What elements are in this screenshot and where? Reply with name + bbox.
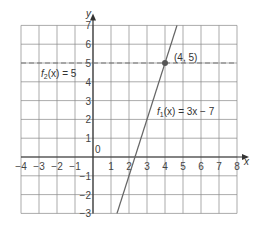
axes [21, 13, 249, 213]
x-tick-label: 6 [198, 161, 204, 172]
y-tick-label: −3 [80, 208, 92, 219]
f1-label: f1(x) = 3x − 7 [157, 106, 215, 118]
tick-labels: −4−3−2−1012345678−3−2−11234567 [15, 20, 240, 219]
y-tick-label: 4 [85, 77, 91, 88]
x-tick-label: −2 [51, 161, 63, 172]
y-tick-label: −1 [80, 171, 92, 182]
y-axis-label: y [85, 8, 92, 19]
y-tick-label: 1 [85, 133, 91, 144]
function-graph: −4−3−2−1012345678−3−2−11234567 x y (4, 5… [0, 0, 261, 231]
x-tick-label: 3 [144, 161, 150, 172]
point-label: (4, 5) [174, 52, 197, 63]
x-tick-label: 4 [162, 161, 168, 172]
x-tick-label: 5 [180, 161, 186, 172]
x-tick-label: 0 [95, 144, 101, 155]
y-tick-label: −2 [80, 190, 92, 201]
y-tick-label: 6 [85, 39, 91, 50]
x-axis-label: x [243, 156, 250, 167]
x-tick-label: 8 [234, 161, 240, 172]
y-tick-label: 3 [85, 96, 91, 107]
x-tick-label: −3 [33, 161, 45, 172]
y-tick-label: 7 [85, 20, 91, 31]
x-tick-label: 7 [216, 161, 222, 172]
y-tick-label: 2 [85, 114, 91, 125]
intersection-point [162, 60, 168, 66]
f2-label: f2(x) = 5 [41, 68, 77, 80]
x-tick-label: 1 [108, 161, 114, 172]
grid [21, 25, 237, 213]
x-tick-label: −4 [15, 161, 27, 172]
